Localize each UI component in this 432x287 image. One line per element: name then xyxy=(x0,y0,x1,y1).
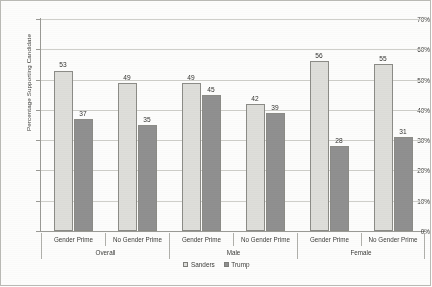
bar-trump xyxy=(394,137,413,231)
x-axis-line xyxy=(40,231,425,232)
chart-frame: Percentage Supporting Candidate 0%10%20%… xyxy=(0,0,431,286)
bar-trump xyxy=(74,119,93,231)
bar-sanders xyxy=(246,104,265,231)
category-label: Gender Prime xyxy=(297,233,361,246)
bar-trump xyxy=(202,95,221,231)
legend-item-sanders[interactable]: Sanders xyxy=(183,261,214,268)
gridline xyxy=(41,140,425,141)
y-axis-tick-mark xyxy=(36,110,40,111)
bar-value-label: 49 xyxy=(114,74,140,81)
gridline xyxy=(41,110,425,111)
bar-trump xyxy=(330,146,349,231)
legend-item-trump[interactable]: Trump xyxy=(224,261,250,268)
bar-sanders xyxy=(54,71,73,232)
gridline xyxy=(41,19,425,20)
bar-trump xyxy=(266,113,285,231)
legend-label: Sanders xyxy=(191,261,215,268)
bar-value-label: 56 xyxy=(306,52,332,59)
group-label: Female xyxy=(297,246,425,259)
bar-value-label: 53 xyxy=(50,61,76,68)
y-axis-tick-mark xyxy=(36,140,40,141)
bar-value-label: 55 xyxy=(370,55,396,62)
category-label: Gender Prime xyxy=(169,233,233,246)
bar-sanders xyxy=(118,83,137,231)
y-axis-tick-mark xyxy=(36,80,40,81)
legend-swatch-icon xyxy=(224,262,229,267)
category-label: No Gender Prime xyxy=(105,233,169,246)
category-label: No Gender Prime xyxy=(361,233,425,246)
group-label: Overall xyxy=(41,246,169,259)
y-axis-tick-mark xyxy=(36,19,40,20)
bar-value-label: 42 xyxy=(242,95,268,102)
chart-legend: SandersTrump xyxy=(1,261,432,268)
bar-value-label: 45 xyxy=(198,86,224,93)
y-axis-tick-mark xyxy=(36,201,40,202)
bar-value-label: 28 xyxy=(326,137,352,144)
group-label: Male xyxy=(169,246,297,259)
bar-sanders xyxy=(182,83,201,231)
gridline xyxy=(41,80,425,81)
y-axis-title: Percentage Supporting Candidate xyxy=(25,8,32,158)
category-label: No Gender Prime xyxy=(233,233,297,246)
legend-swatch-icon xyxy=(183,262,188,267)
gridline xyxy=(41,49,425,50)
bar-trump xyxy=(138,125,157,231)
y-axis-tick-mark xyxy=(36,170,40,171)
bar-value-label: 39 xyxy=(262,104,288,111)
bar-value-label: 37 xyxy=(70,110,96,117)
gridline xyxy=(41,201,425,202)
gridline xyxy=(41,170,425,171)
plot-area: 533749354945423956285531 xyxy=(41,19,425,231)
bar-sanders xyxy=(374,64,393,231)
bar-value-label: 35 xyxy=(134,116,160,123)
legend-label: Trump xyxy=(231,261,249,268)
category-label: Gender Prime xyxy=(41,233,105,246)
bar-value-label: 49 xyxy=(178,74,204,81)
bar-sanders xyxy=(310,61,329,231)
y-axis-tick-mark xyxy=(36,49,40,50)
y-axis-tick-mark xyxy=(36,231,40,232)
bar-value-label: 31 xyxy=(390,128,416,135)
